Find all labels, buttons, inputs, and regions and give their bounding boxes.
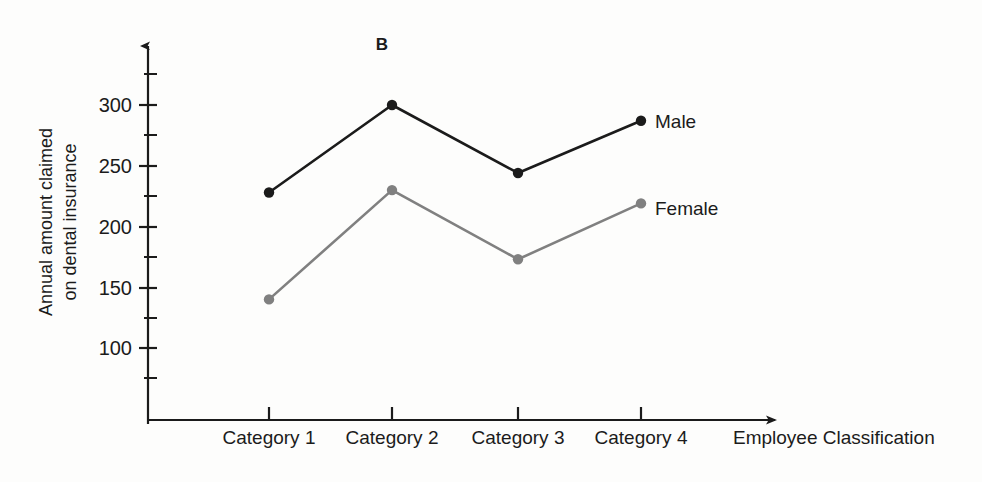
y-tick-label-200: 200 (99, 216, 132, 238)
series-group-female (264, 185, 646, 305)
data-point-male-category-3 (513, 168, 523, 178)
x-axis-title: Employee Classification (733, 427, 935, 448)
panel-label-b: B (376, 35, 388, 54)
y-axis: 300 250 200 150 100 (99, 46, 157, 424)
data-point-male-category-2 (387, 100, 397, 110)
series-markers-female (264, 185, 646, 305)
y-axis-title: Annual amount claimed on dental insuranc… (36, 128, 80, 316)
x-tick-label-category-3: Category 3 (472, 427, 565, 448)
y-tick-label-250: 250 (99, 155, 132, 177)
data-point-male-category-4 (636, 116, 646, 126)
y-tick-label-150: 150 (99, 277, 132, 299)
series-group-male (264, 100, 646, 198)
data-point-female-category-2 (387, 185, 397, 195)
series-line-male (269, 105, 641, 193)
line-chart-canvas: 300 250 200 150 100 Annual amount claime… (0, 0, 982, 482)
series-line-female (269, 190, 641, 299)
series-label-male: Male (655, 111, 696, 132)
x-tick-label-category-1: Category 1 (223, 427, 316, 448)
x-tick-label-category-2: Category 2 (346, 427, 439, 448)
y-tick-label-300: 300 (99, 94, 132, 116)
chart-figure: 300 250 200 150 100 Annual amount claime… (0, 0, 982, 482)
x-tick-label-category-4: Category 4 (595, 427, 688, 448)
x-axis: Category 1 Category 2 Category 3 Categor… (148, 407, 935, 448)
y-axis-title-line1: Annual amount claimed (36, 128, 56, 316)
data-point-male-category-1 (264, 187, 274, 197)
series-label-female: Female (655, 198, 718, 219)
data-point-female-category-3 (513, 254, 523, 264)
data-point-female-category-4 (636, 198, 646, 208)
y-tick-label-100: 100 (99, 337, 132, 359)
y-axis-title-line2: on dental insurance (60, 143, 80, 300)
data-point-female-category-1 (264, 294, 274, 304)
series-markers-male (264, 100, 646, 198)
